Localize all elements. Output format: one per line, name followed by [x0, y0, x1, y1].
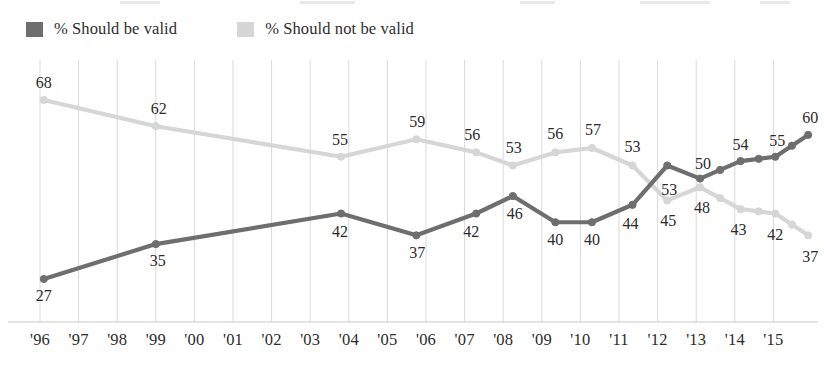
x-tick-label: '03: [300, 330, 320, 350]
data-label: 35: [150, 252, 166, 269]
data-point: [629, 201, 636, 208]
legend-item-valid[interactable]: % Should be valid: [26, 19, 177, 39]
data-point: [588, 144, 595, 151]
data-label: 42: [767, 226, 783, 243]
x-tick-label: '05: [377, 330, 397, 350]
data-label: 56: [464, 126, 480, 143]
legend-swatch-not_valid: [237, 22, 254, 37]
x-axis-tick-labels: '96'97'98'99'00'01'02'03'04'05'06'07'08'…: [0, 330, 824, 360]
chart-legend: % Should be valid% Should not be valid: [26, 18, 414, 40]
legend-item-not_valid[interactable]: % Should not be valid: [237, 19, 414, 39]
data-label: 54: [733, 136, 749, 153]
data-point: [40, 96, 47, 103]
data-point: [755, 208, 762, 215]
x-tick-label: '12: [648, 330, 668, 350]
data-point: [629, 162, 636, 169]
data-point: [509, 162, 516, 169]
chart-page: % Should be valid% Should not be valid 6…: [0, 0, 824, 378]
data-label: 46: [507, 205, 523, 222]
x-tick-label: '14: [725, 330, 745, 350]
data-label: 60: [802, 109, 818, 126]
x-tick-label: '11: [609, 330, 628, 350]
data-point: [588, 219, 595, 226]
data-label: 59: [409, 113, 425, 130]
data-label: 42: [332, 223, 348, 240]
legend-label-not_valid: % Should not be valid: [265, 19, 414, 39]
data-point: [152, 123, 159, 130]
data-label: 62: [151, 100, 167, 117]
data-point: [337, 210, 344, 217]
data-point: [337, 153, 344, 160]
data-label: 55: [332, 131, 348, 148]
x-tick-label: '00: [184, 330, 204, 350]
data-point: [717, 195, 724, 202]
data-point: [696, 184, 703, 191]
cropped-title-artifact: [0, 0, 824, 6]
data-point: [413, 136, 420, 143]
data-point: [788, 221, 795, 228]
data-label: 44: [623, 215, 639, 232]
x-tick-label: '01: [223, 330, 243, 350]
legend-swatch-valid: [26, 22, 43, 37]
data-label: 37: [409, 244, 425, 261]
line-chart-svg: 6862555956535657534548434237273542374246…: [0, 52, 824, 328]
x-tick-label: '10: [570, 330, 590, 350]
data-point: [509, 192, 516, 199]
data-point: [788, 142, 795, 149]
data-label: 56: [547, 125, 563, 142]
data-point: [473, 149, 480, 156]
data-point: [717, 166, 724, 173]
data-point: [772, 210, 779, 217]
data-point: [664, 162, 671, 169]
data-point: [737, 158, 744, 165]
data-label: 68: [36, 74, 52, 91]
data-point: [413, 232, 420, 239]
x-tick-label: '06: [416, 330, 436, 350]
data-point: [552, 219, 559, 226]
x-tick-label: '15: [763, 330, 783, 350]
data-label: 40: [584, 231, 600, 248]
data-point: [737, 206, 744, 213]
data-point: [805, 131, 812, 138]
x-tick-label: '13: [686, 330, 706, 350]
data-point: [152, 240, 159, 247]
data-label: 53: [625, 138, 641, 155]
x-tick-label: '99: [146, 330, 166, 350]
data-label: 50: [695, 155, 711, 172]
data-point: [473, 210, 480, 217]
x-tick-label: '98: [107, 330, 127, 350]
data-label: 53: [506, 139, 522, 156]
data-label: 42: [463, 223, 479, 240]
data-point: [805, 232, 812, 239]
data-point: [772, 153, 779, 160]
x-tick-label: '04: [339, 330, 359, 350]
data-label: 53: [661, 181, 677, 198]
data-label: 45: [660, 212, 676, 229]
data-label: 48: [694, 199, 710, 216]
legend-label-valid: % Should be valid: [54, 19, 177, 39]
data-label: 37: [802, 248, 818, 265]
data-point: [696, 175, 703, 182]
data-point: [40, 275, 47, 282]
data-label: 43: [731, 221, 747, 238]
x-tick-label: '08: [493, 330, 513, 350]
x-tick-label: '97: [69, 330, 89, 350]
x-tick-label: '96: [30, 330, 50, 350]
data-point: [552, 149, 559, 156]
x-tick-label: '07: [455, 330, 475, 350]
chart-plot-area: 6862555956535657534548434237273542374246…: [0, 52, 824, 328]
data-label: 27: [36, 287, 52, 304]
x-tick-label: '09: [532, 330, 552, 350]
data-point: [755, 155, 762, 162]
x-tick-label: '02: [262, 330, 282, 350]
data-label: 57: [585, 121, 601, 138]
data-label: 40: [547, 231, 563, 248]
data-label: 55: [769, 132, 785, 149]
